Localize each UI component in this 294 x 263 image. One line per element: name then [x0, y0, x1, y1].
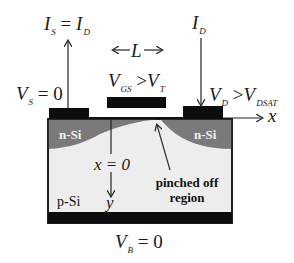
mosfet-cross-section — [0, 0, 294, 263]
gate-voltage-label: VGS >VT — [108, 71, 165, 94]
x-axis-label: x — [268, 106, 276, 125]
n-si-right-label: n-Si — [194, 128, 216, 141]
gate-oxide — [89, 117, 183, 119]
pinched-off-line2: region — [149, 191, 225, 206]
origin-label: x = 0 — [94, 156, 130, 173]
gate-electrode — [107, 97, 166, 108]
drain-current-label: ID — [192, 13, 206, 36]
body-contact — [48, 212, 232, 223]
pinched-off-label: pinched off region — [149, 176, 225, 206]
channel-length-label: L — [131, 41, 142, 60]
pinched-off-line1: pinched off — [149, 176, 225, 191]
mosfet-diagram: IS = ID ID L VGS >VT VS = 0 VD >VDSAT x … — [0, 0, 294, 263]
source-current-label: IS = ID — [44, 14, 90, 37]
n-si-left-label: n-Si — [59, 128, 81, 141]
source-voltage-label: VS = 0 — [16, 84, 63, 107]
y-axis-label: y — [106, 194, 114, 211]
p-si-label: p-Si — [57, 195, 80, 209]
body-voltage-label: VB = 0 — [115, 232, 163, 255]
source-contact — [49, 108, 89, 119]
